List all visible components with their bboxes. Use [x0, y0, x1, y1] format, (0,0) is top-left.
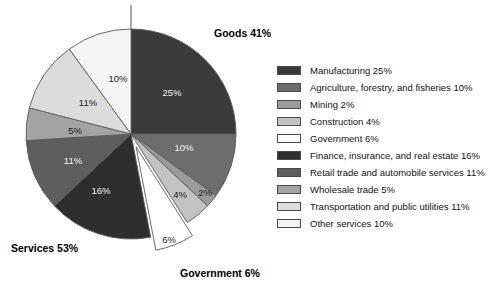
slice-label-other-services: 10%: [108, 73, 128, 84]
swatch-manufacturing: [277, 66, 301, 75]
swatch-retail: [277, 168, 301, 177]
legend-item[interactable]: Manufacturing 25%: [277, 62, 487, 79]
legend-item-label: Manufacturing 25%: [310, 65, 392, 76]
legend-item-label: Mining 2%: [310, 99, 354, 110]
legend-item[interactable]: Construction 4%: [277, 113, 487, 130]
legend-item[interactable]: Finance, insurance, and real estate 16%: [277, 147, 487, 164]
legend-item[interactable]: Other services 10%: [277, 215, 487, 232]
swatch-construction: [277, 117, 301, 126]
legend-item-label: Agriculture, forestry, and fisheries 10%: [310, 82, 472, 93]
annotation-goods: Goods 41%: [214, 27, 272, 39]
annotation-services: Services 53%: [11, 242, 79, 254]
swatch-finance: [277, 151, 301, 160]
annotation-government: Government 6%: [180, 267, 261, 279]
slice-label-manufacturing: 25%: [162, 87, 182, 98]
swatch-wholesale: [277, 185, 301, 194]
pie-slices-group: [26, 29, 236, 250]
slice-label-construction: 4%: [173, 189, 187, 200]
slice-label-agriculture: 10%: [174, 142, 194, 153]
swatch-transportation: [277, 202, 301, 211]
legend-item[interactable]: Agriculture, forestry, and fisheries 10%: [277, 79, 487, 96]
swatch-other-services: [277, 219, 301, 228]
slice-label-mining: 2%: [198, 187, 212, 198]
legend-item-label: Government 6%: [310, 133, 379, 144]
pie-slice-manufacturing[interactable]: [131, 29, 236, 134]
legend-item[interactable]: Mining 2%: [277, 96, 487, 113]
legend-item[interactable]: Wholesale trade 5%: [277, 181, 487, 198]
slice-label-transportation: 11%: [79, 97, 98, 108]
swatch-government: [277, 134, 301, 143]
slice-label-government: 6%: [162, 234, 176, 245]
legend-item[interactable]: Transportation and public utilities 11%: [277, 198, 487, 215]
legend-item[interactable]: Retail trade and automobile services 11%: [277, 164, 487, 181]
legend-item-label: Retail trade and automobile services 11%: [310, 167, 485, 178]
legend-item-label: Construction 4%: [310, 116, 380, 127]
legend-item[interactable]: Government 6%: [277, 130, 487, 147]
slice-label-retail: 11%: [64, 155, 83, 166]
slice-label-finance: 16%: [91, 185, 111, 196]
legend-item-label: Transportation and public utilities 11%: [310, 201, 469, 212]
pie-chart: 25% 10% 2% 4% 6% 16% 11% 5% 11% 10% Good…: [0, 0, 490, 287]
swatch-mining: [277, 100, 301, 109]
legend: Manufacturing 25%Agriculture, forestry, …: [277, 62, 487, 232]
legend-item-label: Other services 10%: [310, 218, 393, 229]
legend-item-label: Wholesale trade 5%: [310, 184, 395, 195]
slice-label-wholesale: 5%: [68, 125, 82, 136]
swatch-agriculture: [277, 83, 301, 92]
legend-item-label: Finance, insurance, and real estate 16%: [310, 150, 480, 161]
